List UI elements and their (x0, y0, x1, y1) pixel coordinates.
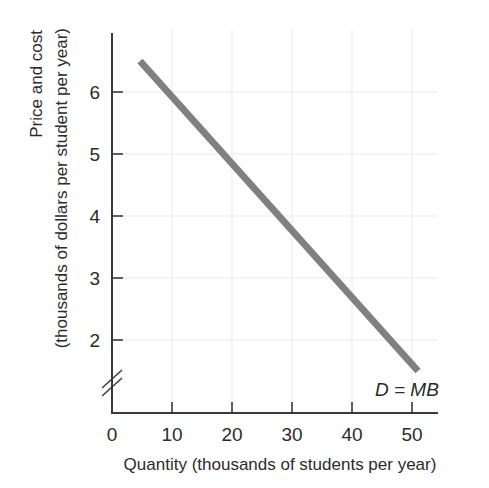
x-tick-label-30: 30 (281, 424, 302, 445)
y-axis-ticks (112, 92, 123, 340)
y-tick-label-6: 6 (89, 82, 100, 103)
x-axis-tick-labels: 0 10 20 30 40 50 (107, 424, 423, 445)
y-axis-tick-labels: 6 5 4 3 2 (89, 82, 100, 351)
chart-figure: 6 5 4 3 2 0 10 20 30 40 50 D = MB Quanti… (0, 0, 489, 488)
axes (112, 34, 437, 413)
x-axis-ticks (172, 402, 412, 413)
y-axis-title-line2: (thousands of dollars per student per ye… (52, 28, 71, 348)
x-axis-title: Quantity (thousands of students per year… (124, 455, 437, 474)
y-tick-label-5: 5 (89, 144, 100, 165)
y-tick-label-2: 2 (89, 330, 100, 351)
x-tick-label-20: 20 (221, 424, 242, 445)
y-tick-label-4: 4 (89, 206, 100, 227)
x-tick-label-10: 10 (161, 424, 182, 445)
x-tick-label-40: 40 (341, 424, 362, 445)
demand-curve-label: D = MB (375, 379, 439, 400)
x-tick-label-50: 50 (401, 424, 422, 445)
y-tick-label-3: 3 (89, 268, 100, 289)
x-tick-label-0: 0 (107, 424, 118, 445)
chart-canvas: 6 5 4 3 2 0 10 20 30 40 50 D = MB Quanti… (0, 0, 489, 488)
y-axis-title-line1: Price and cost (27, 30, 46, 138)
